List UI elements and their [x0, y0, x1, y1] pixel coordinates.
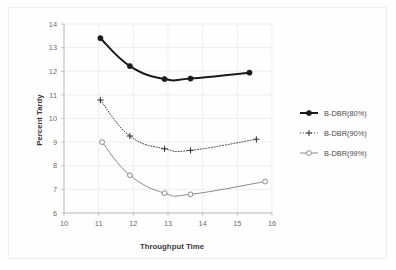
data-point-marker [162, 76, 167, 81]
data-point-marker [307, 151, 312, 156]
x-tick-label: 11 [95, 219, 103, 228]
series-line [100, 100, 256, 152]
data-point-marker [100, 140, 105, 145]
data-series-layer [97, 36, 267, 197]
legend-item-1[interactable]: B-DBR(80%) [300, 109, 367, 118]
chart-legend: B-DBR(80%)B-DBR(90%)B-DBR(99%) [300, 109, 367, 158]
x-tick-label: 14 [199, 219, 207, 228]
gridlines [64, 24, 272, 213]
series-1 [98, 36, 252, 82]
y-tick-label: 12 [49, 67, 57, 76]
y-tick-label: 9 [53, 138, 57, 147]
x-tick-label: 12 [129, 219, 137, 228]
data-point-marker [98, 36, 103, 41]
y-tick-label: 11 [49, 91, 57, 100]
x-tick-labels: 10111213141516 [60, 219, 276, 228]
series-2 [97, 97, 259, 154]
legend-item-2[interactable]: B-DBR(90%) [300, 129, 367, 138]
x-axis-title: Throughput Time [140, 242, 205, 251]
series-3 [100, 140, 268, 197]
legend-item-3[interactable]: B-DBR(99%) [300, 149, 367, 158]
data-point-marker [162, 191, 167, 196]
data-point-marker [306, 110, 311, 115]
series-line [102, 142, 265, 196]
y-tick-labels: 67891011121314 [49, 20, 57, 218]
x-tick-label: 10 [60, 219, 68, 228]
y-tick-label: 8 [53, 161, 57, 170]
y-tick-label: 6 [53, 209, 57, 218]
chart-figure: 67891011121314 10111213141516 B-DBR(80%)… [0, 0, 396, 270]
y-axis-title: Percent Tardy [35, 94, 44, 146]
x-tick-label: 13 [164, 219, 172, 228]
legend-label: B-DBR(90%) [324, 129, 367, 138]
x-tick-label: 16 [268, 219, 276, 228]
legend-label: B-DBR(99%) [324, 149, 367, 158]
data-point-marker [188, 76, 193, 81]
series-line [100, 38, 249, 80]
data-point-marker [127, 63, 132, 68]
x-tick-label: 15 [233, 219, 241, 228]
data-point-marker [188, 192, 193, 197]
y-tick-label: 10 [49, 114, 57, 123]
legend-label: B-DBR(80%) [324, 109, 367, 118]
tick-marks [61, 24, 272, 216]
y-tick-label: 13 [49, 43, 57, 52]
data-point-marker [247, 70, 252, 75]
y-tick-label: 7 [53, 185, 57, 194]
data-point-marker [127, 173, 132, 178]
y-tick-label: 14 [49, 20, 57, 29]
data-point-marker [263, 179, 268, 184]
line-chart: 67891011121314 10111213141516 B-DBR(80%)… [0, 0, 396, 270]
